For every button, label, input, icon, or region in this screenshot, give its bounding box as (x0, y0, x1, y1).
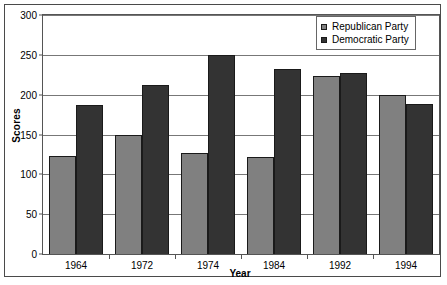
bar[interactable] (142, 85, 169, 254)
bars (109, 15, 175, 254)
legend-item-democratic[interactable]: Democratic Party (321, 33, 409, 46)
plot-area: 050100150200250300 196419721974198419921… (42, 14, 440, 255)
bar[interactable] (208, 55, 235, 254)
bars (43, 15, 109, 254)
bar-group: 1992 (307, 15, 373, 254)
bar[interactable] (313, 76, 340, 254)
bar-group: 1972 (109, 15, 175, 254)
bar[interactable] (340, 73, 367, 254)
x-tick-mark (373, 254, 374, 259)
x-tick-mark (109, 254, 110, 259)
bar-group: 1984 (241, 15, 307, 254)
legend-label-republican: Republican Party (332, 21, 408, 32)
bar-group: 1994 (373, 15, 439, 254)
y-tick-label: 100 (20, 169, 37, 180)
y-tick-label: 300 (20, 10, 37, 21)
bar-group: 1974 (175, 15, 241, 254)
bar-chart: Scores 050100150200250300 19641972197419… (0, 0, 447, 285)
bars (373, 15, 439, 254)
x-tick-mark (307, 254, 308, 259)
legend-label-democratic: Democratic Party (332, 34, 409, 45)
y-tick-label: 250 (20, 49, 37, 60)
y-tick-label: 50 (26, 209, 37, 220)
x-tick-mark (241, 254, 242, 259)
bar[interactable] (76, 105, 103, 254)
bar[interactable] (247, 157, 274, 254)
legend-item-republican[interactable]: Republican Party (321, 20, 409, 33)
x-axis-title: Year (42, 268, 438, 279)
y-tick-label: 150 (20, 129, 37, 140)
legend-swatch-republican-icon (321, 24, 327, 30)
bar-groups: 196419721974198419921994 (43, 15, 439, 254)
y-tick-label: 0 (31, 249, 37, 260)
bar[interactable] (115, 135, 142, 255)
x-tick-mark (175, 254, 176, 259)
bar[interactable] (406, 104, 433, 254)
chart-legend: Republican Party Democratic Party (316, 16, 416, 50)
bar-group: 1964 (43, 15, 109, 254)
bar[interactable] (181, 153, 208, 254)
y-tick-label: 200 (20, 89, 37, 100)
legend-swatch-democratic-icon (321, 37, 327, 43)
bars (175, 15, 241, 254)
bar[interactable] (274, 69, 301, 254)
bar[interactable] (379, 95, 406, 254)
bars (307, 15, 373, 254)
bar[interactable] (49, 156, 76, 254)
bars (241, 15, 307, 254)
